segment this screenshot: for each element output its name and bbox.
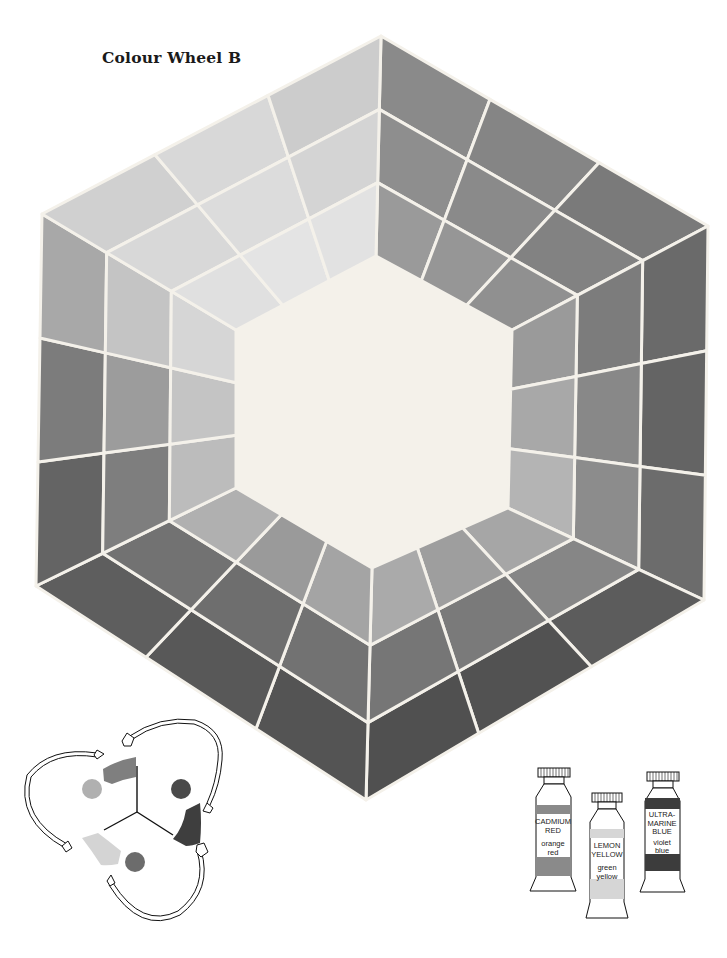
violet-blue-swatch (173, 803, 201, 846)
tube-band-top (645, 798, 680, 809)
tube-name-line: BLUE (638, 828, 686, 837)
tube-hue-line: red (528, 849, 578, 858)
green-yellow-swatch (82, 833, 121, 865)
arrow-head-icon (94, 750, 104, 759)
tube-label: CADMIUM RED orange red (528, 818, 578, 857)
tube-hue-line: yellow (584, 873, 630, 882)
violet-dot (171, 779, 191, 799)
arrow-head-icon (122, 733, 134, 746)
tube-label: LEMON YELLOW green yellow (584, 842, 630, 881)
arrow-head-icon (62, 841, 72, 852)
tube-label: ULTRA- MARINE BLUE violet blue (638, 811, 686, 856)
tube-band-bottom (590, 879, 624, 899)
orange-dot (82, 779, 102, 799)
tube-band-top (590, 829, 624, 838)
paint-tube-lemon-yellow: LEMON YELLOW green yellow (584, 792, 630, 922)
tube-band-bottom (645, 854, 680, 871)
orange-red-swatch (103, 757, 136, 784)
tube-name-line: RED (528, 827, 578, 836)
tube-band-top (536, 805, 571, 814)
tube-name-line: YELLOW (584, 851, 630, 860)
green-dot (125, 852, 145, 872)
tube-band-bottom (536, 857, 571, 876)
tube-hue-line: blue (638, 847, 686, 856)
paint-tube-cadmium-red: CADMIUM RED orange red (528, 767, 578, 897)
arrow-head-icon (203, 803, 213, 813)
paint-tube-ultramarine-blue: ULTRA- MARINE BLUE violet blue (638, 771, 686, 901)
